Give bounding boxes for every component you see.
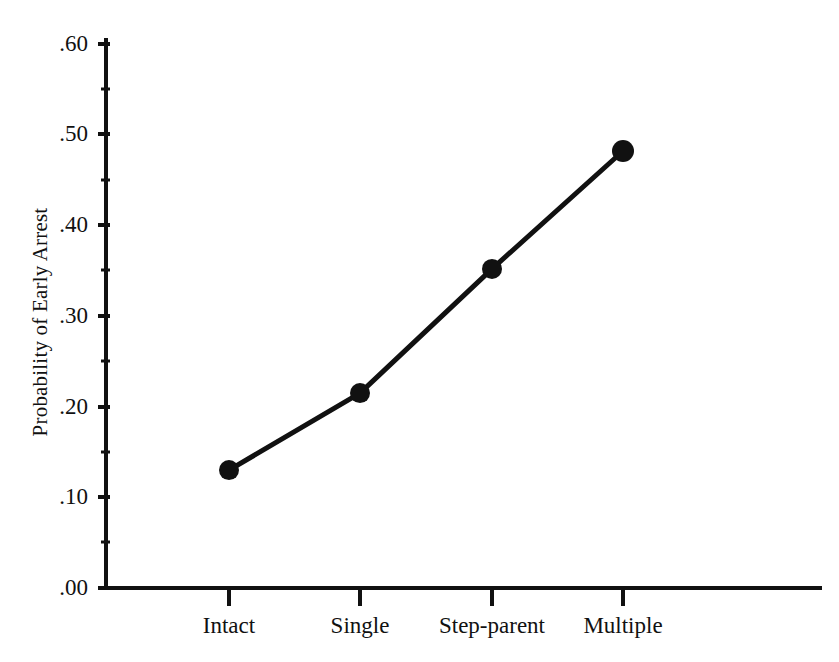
data-point-single (350, 383, 370, 403)
y-tick-label-60: .60 (18, 32, 88, 55)
y-tick-label-00: .00 (18, 576, 88, 599)
y-tick-label-50: .50 (18, 122, 88, 145)
y-tick-label-20: .20 (18, 395, 88, 418)
x-major-ticks (229, 588, 623, 606)
figure-canvas: Probability of Early Arrest (0, 0, 839, 662)
data-point-intact (219, 460, 239, 480)
data-series-line (229, 151, 623, 470)
data-point-step-parent (482, 259, 502, 279)
y-tick-label-10: .10 (18, 485, 88, 508)
data-point-multiple (612, 140, 634, 162)
line-chart-plot (0, 0, 839, 662)
data-markers (219, 140, 634, 480)
x-tick-label-multiple: Multiple (523, 614, 723, 637)
y-tick-label-40: .40 (18, 213, 88, 236)
y-tick-label-30: .30 (18, 304, 88, 327)
